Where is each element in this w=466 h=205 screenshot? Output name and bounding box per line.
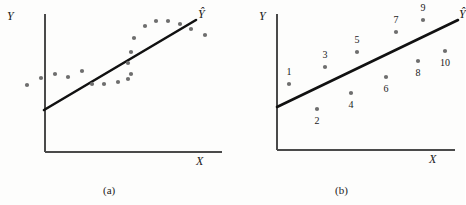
point-label-1: 1: [283, 67, 295, 77]
scatter-point: [129, 72, 133, 76]
scatter-point: [394, 30, 398, 34]
point-label-4: 4: [345, 100, 357, 110]
scatter-point: [66, 75, 70, 79]
x-axis-label: X: [196, 155, 203, 167]
scatter-point: [90, 82, 94, 86]
fitted-line-label: Ŷ: [198, 8, 205, 20]
panel-b: Y X Ŷ (b) 12345678910: [233, 0, 465, 205]
x-axis-label: X: [429, 153, 436, 165]
scatter-point: [203, 33, 207, 37]
point-label-3: 3: [319, 50, 331, 60]
panel-a-plot: [0, 0, 232, 205]
scatter-point: [287, 82, 291, 86]
fitted-regression-line: [44, 20, 196, 110]
scatter-point: [189, 27, 193, 31]
panel-a-axes: [45, 14, 222, 152]
scatter-point: [132, 36, 136, 40]
scatter-point: [349, 91, 353, 95]
scatter-point: [129, 50, 133, 54]
point-label-5: 5: [351, 35, 363, 45]
y-axis-label: Y: [7, 10, 14, 22]
panel-a: Y X Ŷ (a): [0, 0, 232, 205]
point-label-9: 9: [417, 3, 429, 13]
scatter-point: [315, 107, 319, 111]
point-label-8: 8: [412, 68, 424, 78]
panel-b-caption: (b): [335, 184, 348, 196]
point-label-2: 2: [311, 116, 323, 126]
scatter-point: [323, 65, 327, 69]
scatter-point: [39, 76, 43, 80]
scatter-point: [25, 83, 29, 87]
scatter-point: [178, 22, 182, 26]
scatter-point: [421, 18, 425, 22]
fitted-regression-line: [277, 20, 458, 107]
scatter-point: [154, 19, 158, 23]
scatter-point: [166, 19, 170, 23]
scatter-point: [416, 59, 420, 63]
scatter-point: [143, 24, 147, 28]
scatter-point: [102, 82, 106, 86]
point-label-6: 6: [380, 84, 392, 94]
scatter-point: [443, 49, 447, 53]
scatter-point: [355, 50, 359, 54]
scatter-point: [80, 69, 84, 73]
y-axis-label: Y: [259, 10, 266, 22]
scatter-point: [126, 61, 130, 65]
scatter-point: [53, 72, 57, 76]
panel-a-caption: (a): [103, 184, 115, 196]
scatter-point: [116, 80, 120, 84]
point-label-10: 10: [439, 58, 451, 68]
scatter-point: [126, 77, 130, 81]
point-label-7: 7: [390, 15, 402, 25]
scatter-point: [384, 75, 388, 79]
fitted-line-label: Ŷ: [459, 8, 466, 20]
